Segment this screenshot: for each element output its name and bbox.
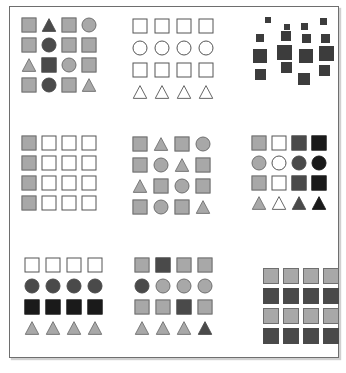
grid-cell — [59, 75, 79, 95]
grid-cell — [129, 15, 151, 37]
shape-square — [272, 176, 287, 191]
grid-cell — [84, 317, 105, 338]
grid-cell — [39, 133, 59, 153]
grid-cell — [171, 133, 192, 154]
grid-cell — [249, 133, 269, 153]
scatter-square — [320, 18, 327, 25]
grid-cell — [301, 286, 321, 306]
shape-square — [323, 308, 339, 324]
panel-middle-right — [249, 133, 329, 213]
grid-cell — [42, 275, 63, 296]
scatter-square — [302, 34, 311, 43]
grid-cell — [173, 59, 195, 81]
shape-square — [323, 328, 339, 344]
shape-square — [292, 136, 307, 151]
shape-circle — [42, 78, 57, 93]
grid-cell — [173, 15, 195, 37]
shape-square — [312, 176, 327, 191]
grid-cell — [39, 35, 59, 55]
shape-square — [66, 299, 81, 314]
shape-square — [155, 19, 170, 34]
shape-square — [62, 18, 77, 33]
grid-cell — [194, 275, 215, 296]
grid-cell — [309, 193, 329, 213]
panel-top-right — [251, 15, 341, 95]
grid-cell — [173, 254, 194, 275]
shape-circle — [176, 278, 191, 293]
grid-cell — [321, 266, 341, 286]
grid-cell — [269, 133, 289, 153]
grid-cell — [261, 266, 281, 286]
grid-cell — [59, 193, 79, 213]
shape-square — [87, 299, 102, 314]
shape-square — [62, 196, 77, 211]
grid-cell — [150, 154, 171, 175]
shape-square — [134, 257, 149, 272]
shape-circle — [42, 38, 57, 53]
grid-cell — [42, 296, 63, 317]
grid-cell — [150, 175, 171, 196]
shape-triangle — [133, 85, 148, 100]
grid-cell — [173, 37, 195, 59]
grid-cell — [173, 275, 194, 296]
grid-cell — [195, 15, 217, 37]
shape-square — [22, 18, 37, 33]
shape-grid — [129, 15, 217, 103]
shape-square — [22, 196, 37, 211]
shape-grid — [19, 15, 99, 95]
shape-square — [174, 136, 189, 151]
shape-square — [263, 308, 279, 324]
grid-cell — [269, 193, 289, 213]
shape-triangle — [153, 136, 168, 151]
shape-circle — [199, 41, 214, 56]
grid-cell — [42, 317, 63, 338]
grid-cell — [79, 15, 99, 35]
grid-cell — [19, 35, 39, 55]
grid-cell — [261, 326, 281, 346]
shape-square — [132, 136, 147, 151]
shape-square — [82, 136, 97, 151]
grid-cell — [79, 173, 99, 193]
shape-square — [62, 78, 77, 93]
grid-cell — [131, 254, 152, 275]
shape-square — [45, 299, 60, 314]
shape-triangle — [312, 196, 327, 211]
grid-cell — [19, 15, 39, 35]
grid-cell — [269, 153, 289, 173]
grid-cell — [194, 317, 215, 338]
shape-square — [45, 257, 60, 272]
grid-cell — [19, 153, 39, 173]
grid-cell — [309, 133, 329, 153]
shape-grid — [261, 266, 341, 346]
grid-cell — [79, 35, 99, 55]
grid-cell — [129, 37, 151, 59]
shape-circle — [195, 136, 210, 151]
shape-square — [292, 176, 307, 191]
shape-circle — [82, 18, 97, 33]
shape-square — [155, 299, 170, 314]
shape-square — [87, 257, 102, 272]
shape-square — [283, 308, 299, 324]
panel-middle-left — [19, 133, 99, 213]
shape-square — [197, 257, 212, 272]
grid-cell — [19, 133, 39, 153]
grid-cell — [39, 55, 59, 75]
grid-cell — [42, 254, 63, 275]
grid-cell — [84, 296, 105, 317]
shape-square — [24, 257, 39, 272]
grid-cell — [192, 154, 213, 175]
shape-square — [155, 257, 170, 272]
grid-cell — [281, 326, 301, 346]
grid-cell — [21, 296, 42, 317]
shape-triangle — [134, 320, 149, 335]
grid-cell — [194, 296, 215, 317]
grid-cell — [173, 317, 194, 338]
shape-circle — [312, 156, 327, 171]
grid-cell — [129, 81, 151, 103]
shape-grid — [19, 133, 99, 213]
shape-triangle — [132, 178, 147, 193]
figure-frame — [9, 6, 339, 358]
shape-square — [62, 136, 77, 151]
shape-square — [323, 288, 339, 304]
shape-square — [82, 156, 97, 171]
